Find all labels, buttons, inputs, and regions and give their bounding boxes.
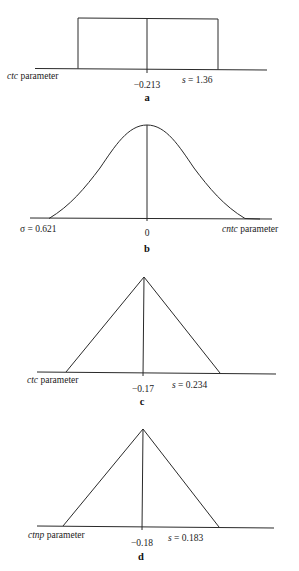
- panel-a-letter: a: [144, 92, 150, 103]
- panel-a-axis: [35, 69, 267, 71]
- panel-c-center-label: −0.17: [132, 384, 154, 394]
- panel-d-triangular: ctnp parameter −0.18 s = 0.183 d: [28, 429, 274, 562]
- panel-c-triangular: ctc parameter −0.17 s = 0.234 c: [27, 277, 276, 407]
- panel-d-spread-label: s = 0.183: [168, 533, 203, 543]
- panel-b-letter: b: [144, 243, 150, 254]
- panel-b-normal: σ = 0.621 0 cntc parameter b: [20, 125, 279, 254]
- panel-b-axis-label: cntc parameter: [222, 224, 279, 234]
- panel-d-triangle: [63, 429, 219, 527]
- panel-a-rectangle: [78, 18, 218, 70]
- panel-c-spread-label: s = 0.234: [172, 380, 207, 390]
- panel-d-center-label: −0.18: [131, 538, 153, 548]
- panel-a-uniform: ctc parameter −0.213 s = 1.36 a: [7, 18, 267, 103]
- panel-c-letter: c: [140, 396, 145, 407]
- panel-c-axis-label: ctc parameter: [27, 375, 79, 385]
- panel-c-center-line: [143, 277, 144, 376]
- panel-b-bell-curve: [49, 125, 260, 219]
- panel-b-center-label: 0: [145, 228, 150, 238]
- panel-b-spread-label: σ = 0.621: [20, 224, 57, 234]
- panel-c-axis: [37, 372, 276, 374]
- panel-d-center-line: [142, 429, 143, 530]
- panel-d-axis-label: ctnp parameter: [28, 530, 86, 540]
- panel-a-spread-label: s = 1.36: [182, 75, 213, 85]
- panel-b-axis: [30, 218, 272, 219]
- panel-d-letter: d: [138, 551, 144, 562]
- panel-a-center-label: −0.213: [134, 80, 161, 90]
- panel-d-axis: [37, 526, 274, 528]
- distribution-figure: ctc parameter −0.213 s = 1.36 a σ = 0.62…: [0, 0, 299, 571]
- panel-a-axis-label: ctc parameter: [7, 71, 59, 81]
